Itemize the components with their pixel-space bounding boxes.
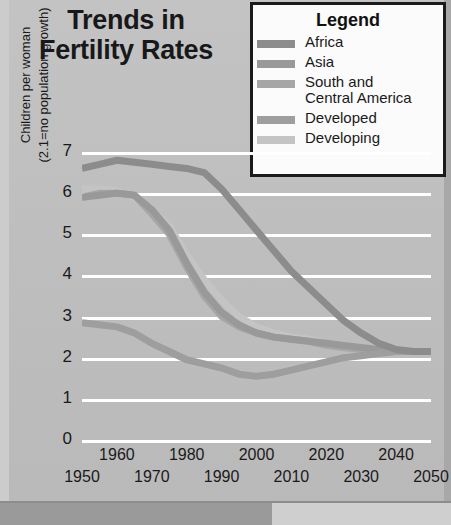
x-tick-label: 2030 <box>338 468 384 486</box>
x-tick-label: 1950 <box>59 468 105 486</box>
legend-item: Africa <box>257 34 443 50</box>
base-band-light <box>272 503 451 525</box>
plot-area <box>82 152 431 440</box>
legend-item: South andCentral America <box>257 74 443 106</box>
x-tick-label: 2000 <box>234 446 280 464</box>
legend-item-label: South andCentral America <box>305 74 412 106</box>
legend-item: Asia <box>257 54 443 70</box>
y-axis-label-line-1: Children per woman <box>18 0 34 185</box>
y-tick-label: 0 <box>52 429 72 449</box>
legend-item-label: Developing <box>305 130 380 146</box>
x-tick-label: 1980 <box>164 446 210 464</box>
legend-swatch-icon <box>257 80 295 88</box>
left-bevel <box>0 0 9 505</box>
legend-swatch-icon <box>257 60 295 68</box>
y-tick-label: 3 <box>52 306 72 326</box>
x-tick-label: 1970 <box>129 468 175 486</box>
chart-figure: Trends in Fertility Rates Legend AfricaA… <box>0 0 451 525</box>
y-tick-label: 6 <box>52 182 72 202</box>
legend-swatch-icon <box>257 40 295 48</box>
legend-box: Legend AfricaAsiaSouth andCentral Americ… <box>250 2 446 177</box>
legend-swatch-icon <box>257 116 295 124</box>
legend-swatch-icon <box>257 136 295 144</box>
legend-heading: Legend <box>253 10 443 31</box>
legend-item-label: Africa <box>305 34 343 50</box>
series-line <box>82 189 431 352</box>
x-tick-label: 2040 <box>373 446 419 464</box>
legend-item: Developed <box>257 110 443 126</box>
x-tick-label: 2010 <box>268 468 314 486</box>
y-tick-label: 1 <box>52 388 72 408</box>
legend-item: Developing <box>257 130 443 146</box>
y-tick-label: 7 <box>52 141 72 161</box>
x-tick-label: 2020 <box>303 446 349 464</box>
y-tick-label: 5 <box>52 223 72 243</box>
gridline <box>82 440 431 443</box>
legend-item-label: Asia <box>305 54 334 70</box>
y-axis-label-line-2: (2.1=no population growth) <box>36 0 52 185</box>
legend-items: AfricaAsiaSouth andCentral AmericaDevelo… <box>253 34 443 146</box>
x-tick-label: 2050 <box>408 468 451 486</box>
x-tick-label: 1990 <box>199 468 245 486</box>
legend-item-label: Developed <box>305 110 377 126</box>
series-lines <box>82 152 431 440</box>
y-tick-label: 2 <box>52 347 72 367</box>
y-tick-label: 4 <box>52 264 72 284</box>
x-tick-label: 1960 <box>94 446 140 464</box>
